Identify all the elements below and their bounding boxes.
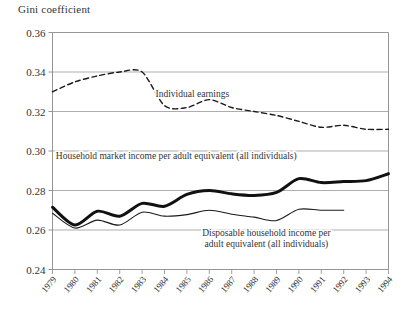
xtick-label-1993: 1993 — [353, 274, 373, 295]
xtick-label-1981: 1981 — [84, 274, 103, 294]
xtick-label-1992: 1992 — [331, 274, 350, 294]
xtick-label-1989: 1989 — [263, 274, 283, 295]
xtick-label-1984: 1984 — [151, 274, 171, 295]
xtick-label-1985: 1985 — [174, 274, 194, 295]
xtick-label-1982: 1982 — [107, 274, 126, 294]
xtick-label-1990: 1990 — [286, 274, 306, 295]
ytick-label-0.32: 0.32 — [26, 106, 45, 118]
chart-plot-svg: 0.240.260.280.300.320.340.36197919801981… — [0, 0, 411, 319]
xtick-label-1986: 1986 — [196, 274, 216, 295]
series-line-household-market-income-per-adult-equivalent-all-individuals — [53, 174, 389, 225]
series-line-individual-earnings — [53, 70, 389, 130]
xtick-label-1983: 1983 — [129, 274, 149, 295]
xtick-label-1988: 1988 — [241, 274, 261, 295]
gini-coefficient-chart: Gini coefficient 0.240.260.280.300.320.3… — [0, 0, 411, 319]
ytick-label-0.36: 0.36 — [26, 27, 46, 39]
xtick-label-1979: 1979 — [39, 274, 59, 295]
ytick-label-0.24: 0.24 — [26, 264, 46, 276]
annotation-disposable-household-income-line2: adult equivalent (all individuals) — [205, 239, 329, 250]
ytick-label-0.30: 0.30 — [26, 145, 46, 157]
ytick-label-0.28: 0.28 — [26, 185, 46, 197]
annotation-household-market-income: Household market income per adult equiva… — [56, 151, 297, 162]
xtick-label-1980: 1980 — [62, 274, 82, 295]
ytick-label-0.34: 0.34 — [26, 66, 46, 78]
annotation-individual-earnings: Individual earnings — [156, 89, 230, 99]
xtick-label-1987: 1987 — [219, 274, 239, 295]
ytick-label-0.26: 0.26 — [26, 224, 46, 236]
annotation-disposable-household-income-line1: Disposable household income per — [202, 228, 331, 238]
xtick-label-1991: 1991 — [308, 274, 327, 294]
xtick-label-1994: 1994 — [375, 274, 395, 295]
